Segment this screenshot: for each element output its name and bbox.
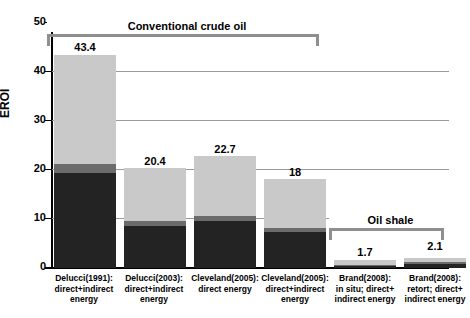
bracket-oil-shale — [329, 228, 444, 240]
bracket-label-oil-shale: Oil shale — [329, 214, 452, 226]
category-label-brand-2008-retort: Brand(2008): retort; direct+ indirect en… — [400, 273, 470, 305]
bar-segment-lower — [264, 232, 326, 268]
bar-delucci-2003[interactable] — [124, 168, 186, 268]
bar-value-label-4: 18 — [264, 166, 326, 178]
bar-brand-2008-in-situ[interactable] — [334, 260, 396, 268]
category-label-cleveland-2005-direct: Cleveland(2005): direct energy — [190, 273, 260, 294]
y-tick-label-0: 0 — [18, 261, 46, 272]
bar-value-label-3: 22.7 — [194, 143, 256, 155]
category-label-cleveland-2005-direct-indirect: Cleveland(2005): direct+indirect energy — [260, 273, 330, 305]
bar-segment-lower — [54, 173, 116, 268]
bar-segment-upper — [264, 179, 326, 227]
bar-cleveland-2005-direct[interactable] — [194, 156, 256, 268]
bracket-conventional-crude-oil — [47, 34, 319, 46]
bar-segment-lower — [334, 266, 396, 268]
bar-segment-middle — [54, 164, 116, 173]
y-axis-label: EROI — [0, 89, 12, 118]
bar-segment-upper — [124, 168, 186, 222]
category-label-brand-2008-in-situ: Brand(2008): in situ; direct+ indirect e… — [330, 273, 400, 305]
bar-delucci-1991[interactable] — [54, 55, 116, 269]
category-label-delucci-1991: Delucci(1991): direct+indirect energy — [50, 273, 118, 305]
y-tick-label-20: 20 — [18, 163, 46, 174]
bar-segment-lower — [124, 226, 186, 268]
bar-cleveland-2005-direct-indirect[interactable] — [264, 179, 326, 268]
bar-value-label-2: 20.4 — [124, 155, 186, 167]
y-tick-label-30: 30 — [18, 114, 46, 125]
bar-segment-upper — [54, 55, 116, 164]
bracket-label-conventional-crude-oil: Conventional crude oil — [47, 20, 327, 32]
y-tick-label-50: 50 — [18, 16, 46, 27]
bar-segment-lower — [404, 264, 466, 268]
bar-brand-2008-retort[interactable] — [404, 258, 466, 268]
y-tick-label-40: 40 — [18, 65, 46, 76]
y-tick-label-10: 10 — [18, 212, 46, 223]
category-label-delucci-2003: Delucci(2003): direct+indirect energy — [120, 273, 188, 305]
bar-segment-upper — [194, 156, 256, 216]
bar-segment-lower — [194, 221, 256, 268]
bar-value-label-5: 1.7 — [334, 246, 396, 258]
bar-value-label-6: 2.1 — [404, 240, 466, 252]
